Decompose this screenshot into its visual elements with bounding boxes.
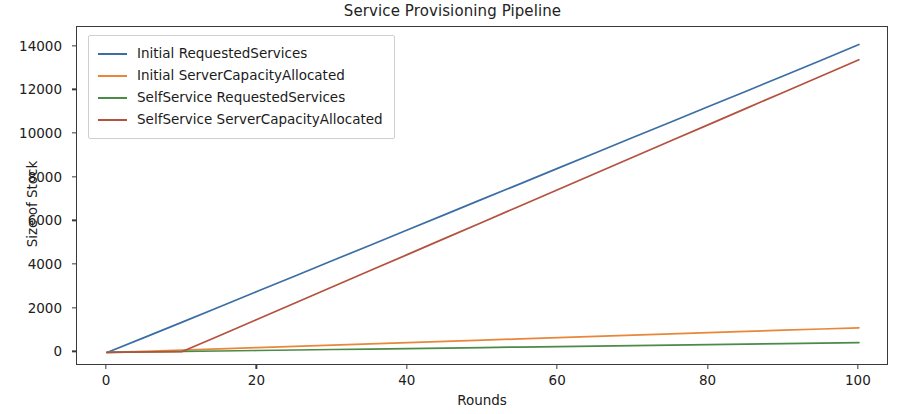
legend-label: Initial RequestedServices <box>137 47 307 61</box>
legend-label: SelfService RequestedServices <box>137 91 345 105</box>
x-tick-label: 20 <box>248 372 265 388</box>
legend-color-swatch <box>98 119 127 121</box>
series-line <box>107 328 859 353</box>
legend-color-swatch <box>98 97 127 99</box>
y-tick-label: 2000 <box>0 300 62 316</box>
y-tick-label: 6000 <box>0 212 62 228</box>
x-tick-label: 80 <box>699 372 716 388</box>
plot-area: Initial RequestedServicesInitial ServerC… <box>76 26 888 365</box>
legend-color-swatch <box>98 75 127 77</box>
chart-figure: Service Provisioning Pipeline Size of St… <box>0 0 905 414</box>
x-tick-label: 0 <box>102 372 111 388</box>
x-axis-label: Rounds <box>76 392 888 408</box>
y-axis-label: Size of Stock <box>24 144 40 264</box>
y-tick-label: 4000 <box>0 256 62 272</box>
y-tick-label: 8000 <box>0 169 62 185</box>
legend-item[interactable]: Initial ServerCapacityAllocated <box>98 65 383 87</box>
y-tick-label: 10000 <box>0 125 62 141</box>
legend-item[interactable]: SelfService ServerCapacityAllocated <box>98 109 383 131</box>
legend-item[interactable]: Initial RequestedServices <box>98 43 383 65</box>
legend-label: SelfService ServerCapacityAllocated <box>137 113 383 127</box>
y-tick-label: 0 <box>0 343 62 359</box>
y-tick-label: 12000 <box>0 81 62 97</box>
chart-title: Service Provisioning Pipeline <box>0 2 905 20</box>
x-tick-label: 60 <box>549 372 566 388</box>
legend: Initial RequestedServicesInitial ServerC… <box>88 35 395 139</box>
legend-color-swatch <box>98 53 127 55</box>
series-line <box>107 343 859 353</box>
legend-label: Initial ServerCapacityAllocated <box>137 69 345 83</box>
x-tick-label: 100 <box>845 372 871 388</box>
legend-item[interactable]: SelfService RequestedServices <box>98 87 383 109</box>
y-tick-label: 14000 <box>0 38 62 54</box>
x-tick-label: 40 <box>398 372 415 388</box>
